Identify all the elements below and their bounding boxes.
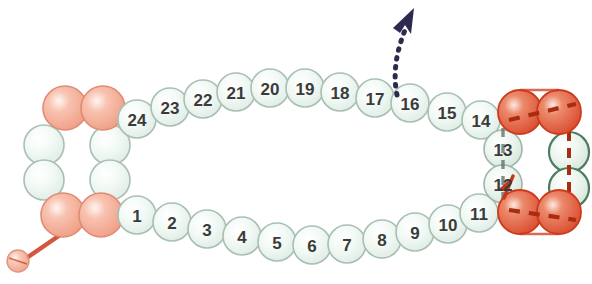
bead-number: 17 — [366, 90, 385, 109]
bead-number: 13 — [494, 141, 513, 160]
beading-pattern-svg: 1 2 3 4 5 6 7 8 9 10 11 12 13 14 15 16 1… — [0, 0, 592, 284]
bead-number: 19 — [296, 80, 315, 99]
bead-number: 14 — [472, 112, 491, 131]
bead-number: 5 — [272, 234, 281, 253]
bead-number: 11 — [470, 205, 488, 224]
bead-number: 23 — [161, 99, 180, 118]
left-toggle-ring — [7, 86, 130, 272]
beading-diagram-canvas: 1 2 3 4 5 6 7 8 9 10 11 12 13 14 15 16 1… — [0, 0, 592, 284]
bead-number: 2 — [167, 214, 176, 233]
bead-green — [24, 125, 64, 165]
bead-number: 24 — [128, 111, 147, 130]
bead-number: 6 — [307, 237, 316, 256]
bead-red — [537, 190, 581, 234]
bead-number: 12 — [494, 176, 513, 195]
bead-number: 16 — [401, 95, 420, 114]
bead-number: 9 — [410, 224, 419, 243]
bead-number: 22 — [194, 91, 213, 110]
bead-number: 3 — [202, 221, 211, 240]
bead-number: 7 — [342, 236, 351, 255]
needle-direction-arrow — [393, 8, 414, 95]
bead-number: 21 — [227, 84, 246, 103]
bead-number: 15 — [438, 104, 457, 123]
bead-number: 1 — [132, 207, 141, 226]
bead-red — [537, 90, 581, 134]
bead-number: 8 — [377, 231, 386, 250]
bead-number: 10 — [439, 216, 458, 235]
bead-pink — [79, 193, 123, 237]
bead-number: 20 — [261, 80, 280, 99]
bead-number: 4 — [237, 228, 247, 247]
bead-number: 18 — [331, 84, 350, 103]
